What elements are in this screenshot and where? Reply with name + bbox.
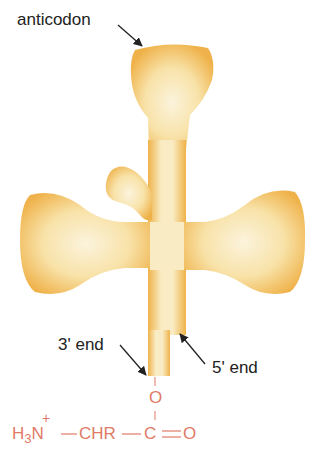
anticodon-label: anticodon <box>17 10 91 30</box>
subscript-3: 3 <box>24 431 31 446</box>
ester-oxygen: O <box>149 388 162 408</box>
chr-group: CHR <box>79 424 116 444</box>
hydrogen: H <box>12 424 24 443</box>
d-arm <box>20 193 152 294</box>
nitrogen: N <box>32 424 44 443</box>
anticodon-loop <box>131 44 214 150</box>
trna-diagram <box>0 0 325 457</box>
carbonyl-carbon: C <box>144 424 156 444</box>
trna-molecule <box>20 44 305 376</box>
three-prime-end-label: 3' end <box>58 335 104 355</box>
variable-loop <box>106 166 152 220</box>
carbonyl-oxygen: O <box>183 424 196 444</box>
five-prime-arrow <box>180 334 205 364</box>
three-prime-tail <box>148 330 170 376</box>
five-prime-end-label: 5' end <box>212 358 258 378</box>
three-prime-arrow <box>120 345 146 375</box>
anticodon-arrow <box>118 25 142 46</box>
t-arm <box>182 191 305 294</box>
amino-group: H3N <box>12 424 44 446</box>
